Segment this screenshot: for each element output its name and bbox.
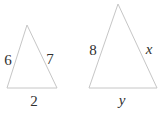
small-triangle-left-side-label: 6 (4, 52, 12, 68)
small-triangle-base-label: 2 (30, 93, 38, 109)
small-triangle-right-side-label: 7 (46, 51, 54, 67)
large-triangle-base-label: y (117, 92, 126, 108)
large-triangle-right-side-label: x (145, 41, 153, 57)
triangles-canvas: 6 7 2 8 x y (0, 0, 161, 113)
similar-triangles-diagram: 6 7 2 8 x y (0, 0, 161, 113)
large-triangle-left-side-label: 8 (89, 42, 97, 58)
